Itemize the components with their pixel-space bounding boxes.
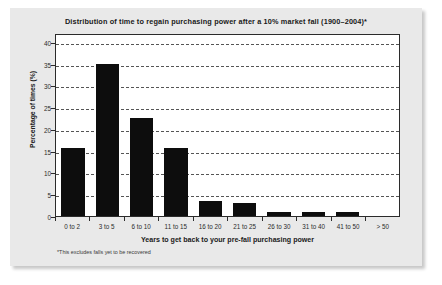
- bar-slot[interactable]: [125, 35, 159, 216]
- bar[interactable]: [267, 212, 290, 216]
- bar-slot[interactable]: [159, 35, 193, 216]
- y-tick-label: 30: [44, 83, 51, 90]
- bar-slot[interactable]: [330, 35, 364, 216]
- bar-slot[interactable]: [193, 35, 227, 216]
- bar[interactable]: [336, 212, 359, 216]
- chart-title: Distribution of time to regain purchasin…: [10, 17, 422, 26]
- y-tick-label: 20: [44, 126, 51, 133]
- bar-slot[interactable]: [56, 35, 90, 216]
- y-axis: Percentage of times (%) 0510152025303540: [10, 34, 55, 217]
- bar-slot[interactable]: [227, 35, 261, 216]
- bar-slot[interactable]: [365, 35, 399, 216]
- y-tick-label: 10: [44, 170, 51, 177]
- chart-figure: Distribution of time to regain purchasin…: [10, 8, 422, 266]
- plot-area: [55, 34, 400, 217]
- bar[interactable]: [164, 148, 187, 216]
- bar[interactable]: [199, 201, 222, 216]
- bar-series: [56, 35, 399, 216]
- bar-slot[interactable]: [296, 35, 330, 216]
- bar[interactable]: [302, 212, 325, 216]
- bar[interactable]: [61, 148, 84, 216]
- bar-slot[interactable]: [90, 35, 124, 216]
- y-tick-label: 35: [44, 61, 51, 68]
- y-tick-label: 15: [44, 148, 51, 155]
- bar-slot[interactable]: [262, 35, 296, 216]
- x-axis-title: Years to get back to your pre-fall purch…: [55, 236, 400, 244]
- chart-footnote: *This excludes falls yet to be recovered: [57, 249, 151, 255]
- y-tick-label: 40: [44, 39, 51, 46]
- bar[interactable]: [130, 118, 153, 216]
- y-axis-title: Percentage of times (%): [29, 20, 36, 200]
- bar[interactable]: [96, 64, 119, 217]
- y-tick-label: 25: [44, 105, 51, 112]
- bar[interactable]: [233, 203, 256, 216]
